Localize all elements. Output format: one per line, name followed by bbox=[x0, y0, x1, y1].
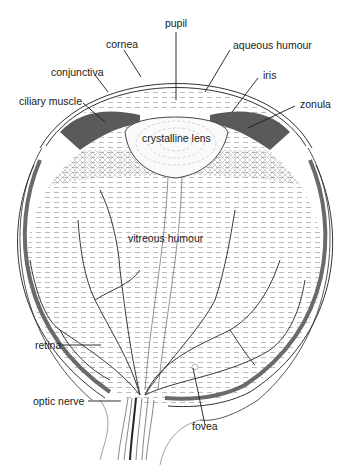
label-retina: retina bbox=[35, 340, 61, 351]
label-vitreous-humour: vitreous humour bbox=[128, 233, 203, 244]
label-optic-nerve: optic nerve bbox=[33, 396, 84, 407]
label-iris: iris bbox=[263, 70, 276, 81]
label-zonula: zonula bbox=[300, 99, 331, 110]
label-aqueous-humour: aqueous humour bbox=[233, 40, 312, 51]
optic-nerve bbox=[100, 398, 200, 465]
label-crystalline-lens: crystalline lens bbox=[142, 133, 211, 144]
label-ciliary-muscle: ciliary muscle bbox=[19, 96, 82, 107]
label-cornea: cornea bbox=[106, 39, 138, 50]
label-pupil: pupil bbox=[165, 18, 187, 29]
label-fovea: fovea bbox=[192, 421, 218, 432]
label-conjunctiva: conjunctiva bbox=[51, 67, 104, 78]
